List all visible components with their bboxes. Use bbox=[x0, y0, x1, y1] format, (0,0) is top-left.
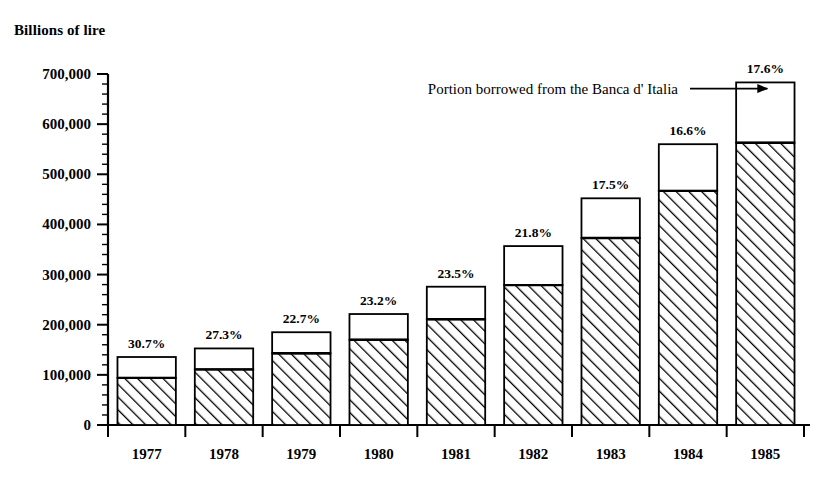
y-tick-label: 0 bbox=[84, 417, 92, 433]
bar-segment-hatched-1981 bbox=[427, 319, 485, 425]
bar-percent-label-1980: 23.2% bbox=[360, 293, 397, 308]
x-tick-label-1981: 1981 bbox=[441, 446, 471, 462]
bar-segment-white-1978 bbox=[195, 348, 253, 369]
y-tick-label: 300,000 bbox=[42, 267, 91, 283]
bar-percent-label-1982: 21.8% bbox=[515, 225, 552, 240]
bar-segment-white-1985 bbox=[736, 82, 794, 142]
bar-segment-hatched-1979 bbox=[272, 353, 330, 425]
bar-segment-white-1983 bbox=[581, 198, 639, 238]
bar-segment-hatched-1977 bbox=[117, 378, 175, 425]
bar-percent-label-1983: 17.5% bbox=[592, 177, 629, 192]
x-tick-label-1982: 1982 bbox=[518, 446, 548, 462]
bar-percent-label-1978: 27.3% bbox=[205, 327, 242, 342]
y-tick-label: 700,000 bbox=[42, 66, 91, 82]
x-tick-label-1977: 1977 bbox=[132, 446, 163, 462]
bar-segment-hatched-1985 bbox=[736, 143, 794, 425]
bar-percent-label-1981: 23.5% bbox=[437, 266, 474, 281]
bar-percent-label-1979: 22.7% bbox=[283, 311, 320, 326]
annotation-label: Portion borrowed from the Banca d' Itali… bbox=[428, 81, 678, 97]
bar-percent-label-1977: 30.7% bbox=[128, 336, 165, 351]
bar-segment-hatched-1978 bbox=[195, 369, 253, 425]
y-tick-label: 500,000 bbox=[42, 166, 91, 182]
bar-segment-white-1979 bbox=[272, 332, 330, 353]
x-tick-label-1978: 1978 bbox=[209, 446, 239, 462]
bar-segment-white-1982 bbox=[504, 246, 562, 285]
x-tick-label-1979: 1979 bbox=[286, 446, 316, 462]
bar-segment-white-1984 bbox=[659, 144, 717, 191]
bar-segment-hatched-1982 bbox=[504, 285, 562, 425]
y-axis: 0100,000200,000300,000400,000500,000600,… bbox=[42, 66, 108, 433]
bar-percent-label-1985: 17.6% bbox=[747, 61, 784, 76]
chart-svg: 0100,000200,000300,000400,000500,000600,… bbox=[0, 0, 818, 494]
bar-segment-hatched-1983 bbox=[581, 238, 639, 425]
annotation-callout: Portion borrowed from the Banca d' Itali… bbox=[428, 81, 767, 97]
y-tick-label: 400,000 bbox=[42, 216, 91, 232]
x-tick-label-1985: 1985 bbox=[750, 446, 780, 462]
bar-segment-white-1981 bbox=[427, 287, 485, 319]
y-tick-label: 200,000 bbox=[42, 317, 91, 333]
x-tick-label-1980: 1980 bbox=[364, 446, 394, 462]
bar-segment-white-1980 bbox=[349, 314, 407, 340]
bar-segment-hatched-1984 bbox=[659, 191, 717, 425]
y-tick-label: 600,000 bbox=[42, 116, 91, 132]
bar-segment-white-1977 bbox=[117, 357, 175, 378]
x-tick-label-1984: 1984 bbox=[673, 446, 704, 462]
y-tick-label: 100,000 bbox=[42, 367, 91, 383]
x-tick-label-1983: 1983 bbox=[596, 446, 626, 462]
chart-container: Billions of lire 0100,000200,000300,0004… bbox=[0, 0, 818, 494]
bar-percent-label-1984: 16.6% bbox=[669, 123, 706, 138]
bar-segment-hatched-1980 bbox=[349, 340, 407, 425]
x-axis: 197719781979198019811982198319841985 bbox=[107, 425, 810, 462]
